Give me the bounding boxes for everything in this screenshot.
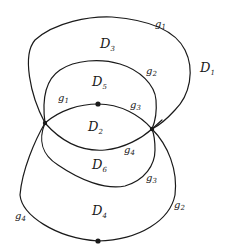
- region-label-d1: D1: [199, 60, 215, 77]
- region-label-d4: D4: [91, 203, 107, 220]
- region-label-d3: D3: [99, 36, 115, 53]
- edge-label-g2-middle: g2: [146, 65, 157, 78]
- vertex-left: [43, 121, 47, 125]
- region-label-d2: D2: [87, 119, 103, 136]
- vertex-top-dot: [95, 101, 100, 106]
- vertex-right: [150, 127, 154, 131]
- edge-label-g4-outer: g4: [15, 210, 26, 223]
- edge-label-g1-inner: g1: [58, 92, 69, 105]
- edge-label-g1-outer: g1: [155, 18, 166, 31]
- edge-label-g3-lower: g3: [146, 172, 157, 185]
- vertex-bottom-dot: [95, 238, 100, 243]
- edge-label-g4-inner: g4: [124, 144, 135, 157]
- edge-label-g2-outer: g2: [174, 199, 185, 212]
- region-label-d5: D5: [91, 74, 107, 91]
- curve-outer-top: [28, 17, 190, 129]
- diagram-canvas: D1 D3 D5 D2 D6 D4 g1 g2 g1 g3 g4 g3 g2 g…: [0, 0, 225, 251]
- region-label-d6: D6: [91, 157, 107, 174]
- edge-label-g3-inner: g3: [130, 99, 141, 112]
